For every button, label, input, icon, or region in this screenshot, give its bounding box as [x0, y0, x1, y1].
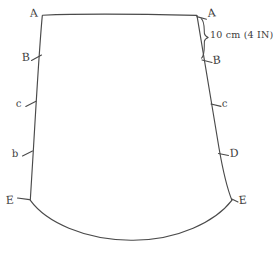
label-left-b: B — [21, 51, 30, 64]
dimension-label: 10 cm (4 IN) — [210, 29, 273, 40]
left-tick-d — [23, 151, 33, 156]
pattern-diagram: A B c b E A B c D E 10 cm (4 IN) — [0, 0, 273, 253]
left-side-seam — [30, 16, 42, 201]
left-tick-c — [26, 101, 36, 106]
left-tick-e — [18, 198, 30, 200]
label-right-b: B — [212, 53, 221, 67]
dimension-brace — [201, 19, 208, 59]
label-right-a: A — [206, 6, 217, 20]
top-edge-line — [43, 14, 197, 15]
label-left-d: b — [12, 148, 19, 159]
label-left-a: A — [28, 6, 39, 20]
bottom-hem-curve — [30, 200, 231, 240]
left-tick-b — [32, 55, 42, 61]
pattern-sketch-canvas: A B c b E A B c D E 10 cm (4 IN) — [0, 0, 273, 253]
right-tick-e — [232, 199, 238, 202]
label-right-d: D — [229, 146, 239, 160]
label-right-e: E — [238, 193, 247, 207]
label-right-c: c — [222, 98, 229, 109]
label-left-c: c — [16, 98, 23, 109]
right-tick-b — [202, 60, 212, 63]
label-left-e: E — [5, 194, 14, 207]
